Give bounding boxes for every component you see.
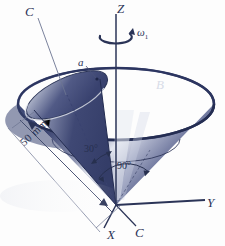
angle-30-label: 30°: [84, 144, 98, 154]
cone-b-label: B: [156, 78, 164, 91]
cone-c-label-bottom: C: [135, 226, 144, 239]
ground-shadow: [0, 180, 120, 212]
angle-90-label: 90°: [117, 161, 131, 171]
axis-y-label: Y: [207, 196, 214, 209]
angular-velocity-label: ω1: [137, 27, 148, 41]
point-a-label: a: [78, 57, 84, 68]
figure-canvas: Z Y X C C a B ω1 30° 90° 50 mm: [0, 0, 225, 246]
omega-subscript: 1: [145, 33, 148, 40]
point-a-marker: [95, 77, 98, 80]
omega-symbol: ω: [137, 26, 145, 38]
axis-x-label: X: [107, 228, 115, 241]
cone-c-label-top: C: [25, 5, 34, 18]
axis-z-label: Z: [117, 2, 124, 15]
